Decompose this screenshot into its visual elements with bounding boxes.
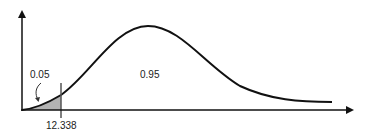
left-area-label: 0.05 xyxy=(30,69,49,80)
density-curve xyxy=(22,26,332,110)
critical-value-label: 12.338 xyxy=(46,120,77,131)
chi-square-chart xyxy=(0,0,368,138)
right-area-label: 0.95 xyxy=(140,69,159,80)
